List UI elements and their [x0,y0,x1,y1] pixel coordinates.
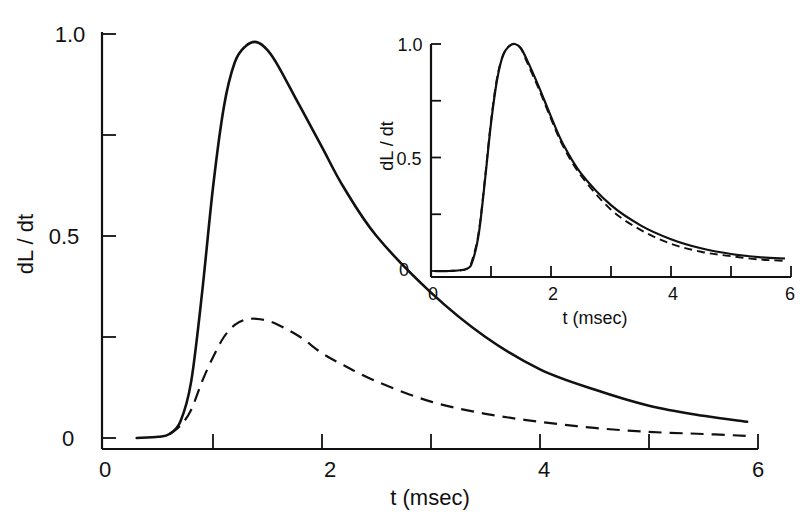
main-x-ticks [213,434,758,449]
main-x-tick-label-4: 4 [538,457,550,482]
inset-y-axis-label: dL / dt [377,121,397,170]
inset-x-tick-label-2: 2 [548,284,558,304]
main-x-tick-label-0: 0 [99,457,111,482]
inset-x-ticks [491,266,791,277]
main-y-ticks [102,34,116,438]
inset-x-axis-label: t (msec) [563,308,628,328]
inset-series-dashed [434,44,785,271]
main-x-tick-label-2: 2 [324,457,336,482]
main-y-tick-label-0: 0 [62,426,74,451]
main-y-axis-label: dL / dt [13,214,38,274]
inset-y-tick-label-1: 1.0 [397,35,422,55]
main-series-dashed [169,319,747,436]
main-x-tick-label-6: 6 [752,457,764,482]
inset-x-tick-label-6: 6 [785,284,795,304]
inset-x-tick-label-4: 4 [668,284,678,304]
main-series-solid [137,42,747,438]
inset-plot: 1.0 0.5 0 0 2 4 6 t (msec) dL / dt [377,35,795,328]
main-plot: 1.0 0.5 0 0 2 4 6 t (msec) dL / dt [13,22,764,510]
inset-y-ticks [431,44,441,271]
inset-y-tick-label-05: 0.5 [396,149,421,169]
inset-x-tick-label-0: 0 [428,284,438,304]
main-y-tick-label-05: 0.5 [49,224,80,249]
main-x-axis-label: t (msec) [390,485,469,510]
main-y-tick-label-1: 1.0 [55,22,86,47]
chart-canvas: 1.0 0.5 0 0 2 4 6 t (msec) dL / dt 1.0 0… [0,0,810,526]
inset-y-tick-label-0: 0 [399,260,409,280]
